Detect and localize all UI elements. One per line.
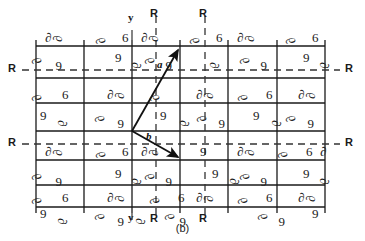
motif-row-1: ∂ ∂ ∂ 6 ∂ ∂ ∂ 6 ∂ ∂ ∂ 6 [45, 30, 319, 47]
svg-text:∂: ∂ [269, 120, 284, 126]
svg-text:6: 6 [266, 190, 273, 205]
space-group-diagram: ∂ ∂ ∂ 6 ∂ ∂ ∂ 6 ∂ ∂ ∂ 6 ∂ 6 9 ∂ ∂ 6 [0, 0, 365, 241]
axis-label-r-top-right: R [199, 8, 207, 19]
svg-text:∂: ∂ [320, 144, 326, 159]
svg-text:6: 6 [62, 190, 69, 205]
svg-text:6: 6 [62, 87, 69, 102]
svg-text:6: 6 [218, 117, 225, 132]
svg-text:∂: ∂ [317, 178, 332, 184]
svg-text:∂: ∂ [201, 93, 216, 99]
svg-text:∂: ∂ [55, 120, 70, 126]
svg-text:6: 6 [260, 175, 267, 190]
svg-text:6: 6 [55, 59, 62, 74]
motif-row-3: ∂ 6 ∂ ∂ ∂ ∂ ∂ ∂ 6 ∂ ∂ [28, 87, 318, 104]
svg-text:6: 6 [266, 87, 273, 102]
svg-text:∂: ∂ [50, 36, 65, 42]
svg-text:9: 9 [40, 108, 47, 123]
svg-text:6: 6 [122, 144, 129, 159]
axis-label-y-top: y [128, 12, 134, 23]
svg-text:6: 6 [216, 30, 223, 45]
axis-label-r-right-lower: R [345, 137, 353, 148]
svg-text:9: 9 [212, 166, 219, 181]
motif-row-5: ∂ ∂ ∂ 6 ∂ ∂ 9 ∂ ∂ ∂ 6 ∂ [45, 144, 326, 161]
svg-text:∂: ∂ [146, 150, 161, 156]
svg-text:∂: ∂ [146, 36, 161, 42]
axis-label-r-left-lower: R [8, 137, 16, 148]
svg-text:9: 9 [253, 108, 260, 123]
svg-text:∂: ∂ [282, 113, 298, 125]
svg-text:∂: ∂ [236, 55, 252, 67]
vector-label-a: a [157, 58, 163, 70]
svg-text:6: 6 [165, 59, 172, 74]
diagram-canvas: ∂ ∂ ∂ 6 ∂ ∂ ∂ 6 ∂ ∂ ∂ 6 ∂ 6 9 ∂ ∂ 6 [0, 0, 365, 241]
svg-text:9: 9 [160, 108, 167, 123]
svg-text:∂: ∂ [92, 149, 108, 161]
svg-text:9: 9 [40, 206, 47, 221]
svg-text:∂: ∂ [303, 93, 318, 99]
svg-text:6: 6 [122, 30, 129, 45]
figure-caption: (b) [0, 222, 365, 234]
axis-label-r-right-upper: R [345, 63, 353, 74]
svg-text:9: 9 [115, 166, 122, 181]
svg-text:∂: ∂ [92, 35, 108, 47]
motif-row-7: ∂ 6 ∂ ∂ ∂ 6 ∂ ∂ ∂ 6 ∂ ∂ [28, 190, 318, 207]
svg-text:∂: ∂ [207, 62, 222, 68]
svg-text:6: 6 [307, 117, 314, 132]
svg-text:6: 6 [55, 175, 62, 190]
svg-text:6: 6 [165, 175, 172, 190]
svg-text:6: 6 [306, 144, 313, 159]
svg-text:∂: ∂ [242, 150, 257, 156]
svg-text:∂: ∂ [112, 196, 127, 202]
svg-text:∂: ∂ [234, 92, 250, 104]
svg-text:6: 6 [117, 117, 124, 132]
svg-text:∂: ∂ [186, 35, 202, 47]
svg-text:∂: ∂ [236, 171, 252, 183]
dashed-horizontal-glide-lines [22, 70, 340, 144]
svg-text:∂: ∂ [141, 55, 157, 67]
svg-text:9: 9 [115, 50, 122, 65]
svg-text:9: 9 [303, 50, 310, 65]
vector-label-b: b [146, 130, 152, 142]
svg-text:∂: ∂ [303, 196, 318, 202]
svg-text:∂: ∂ [50, 150, 65, 156]
svg-text:9: 9 [200, 144, 207, 159]
svg-text:∂: ∂ [193, 113, 209, 125]
axis-label-r-left-upper: R [8, 63, 16, 74]
svg-text:∂: ∂ [146, 92, 162, 104]
svg-text:∂: ∂ [91, 113, 107, 125]
svg-text:∂: ∂ [112, 93, 127, 99]
axis-label-r-top-left: R [150, 8, 158, 19]
svg-text:∂: ∂ [282, 35, 298, 47]
svg-text:∂: ∂ [242, 36, 257, 42]
svg-text:6: 6 [178, 190, 185, 205]
svg-text:∂: ∂ [141, 171, 157, 183]
svg-text:9: 9 [303, 166, 310, 181]
svg-text:∂: ∂ [201, 196, 216, 202]
svg-text:∂: ∂ [177, 120, 192, 126]
solid-vertical-lines [36, 40, 325, 213]
svg-text:∂: ∂ [146, 195, 162, 207]
svg-text:6: 6 [312, 30, 319, 45]
svg-text:9: 9 [312, 206, 319, 221]
svg-text:∂: ∂ [234, 195, 250, 207]
svg-text:6: 6 [260, 59, 267, 74]
svg-text:∂: ∂ [317, 62, 332, 68]
motif-row-4: 9 ∂ ∂ 6 9 ∂ ∂ 6 9 ∂ ∂ 6 [40, 108, 314, 132]
